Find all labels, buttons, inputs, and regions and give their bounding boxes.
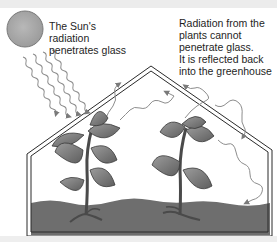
sun-label-line-2: penetrates glass: [49, 44, 139, 56]
reflect-label-line-3: penetrate glass.: [179, 41, 277, 53]
reflect-label-line-5: into the greenhouse: [179, 65, 277, 77]
sun-label-line-1: The Sun's radiation: [49, 20, 139, 44]
soil: [31, 198, 270, 235]
reflect-label-line-1: Radiation from the: [179, 17, 277, 29]
reflect-label-line-2: plants cannot: [179, 29, 277, 41]
wavy-arrows-incoming: [22, 49, 90, 117]
sun-icon: [7, 11, 43, 47]
reflected-radiation-label: Radiation from the plants cannot penetra…: [179, 17, 277, 77]
reflect-label-line-4: It is reflected back: [179, 53, 277, 65]
sun-radiation-label: The Sun's radiation penetrates glass: [49, 20, 139, 56]
bottom-margin: [0, 236, 277, 242]
